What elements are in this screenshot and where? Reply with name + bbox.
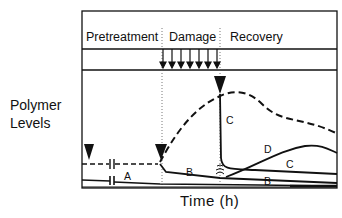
- curve-c: [220, 94, 337, 174]
- curve-dashed: [160, 92, 336, 162]
- curve-label-c1: C: [226, 114, 234, 126]
- curve-label-b2: B: [264, 175, 271, 187]
- phase-dividers: [162, 28, 220, 188]
- curve-label-d: D: [264, 143, 272, 155]
- start-arrow-icon: [84, 144, 94, 160]
- frame: [82, 11, 337, 188]
- x-axis-label: Time (h): [180, 192, 239, 209]
- curve-label-c2: C: [286, 158, 294, 170]
- curve-label-a: A: [124, 170, 131, 182]
- axis-break-marks: [110, 159, 114, 169]
- damage-end-arrow-icon: [214, 76, 226, 94]
- curve-label-b1: B: [186, 166, 193, 178]
- diagram-canvas: [0, 0, 342, 218]
- event-arrows: [84, 76, 226, 160]
- damage-arrows: [160, 49, 220, 68]
